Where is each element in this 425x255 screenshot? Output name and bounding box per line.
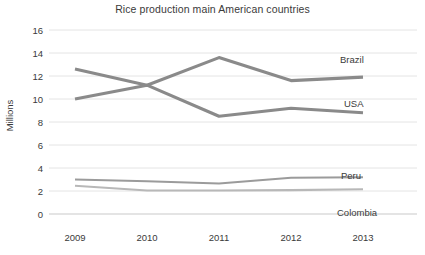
series-line-usa	[75, 85, 363, 116]
series-lines	[75, 58, 363, 191]
series-label-usa: USA	[344, 98, 364, 109]
series-label-brazil: Brazil	[340, 54, 364, 65]
x-tick-label-2009: 2009	[52, 232, 98, 243]
series-label-colombia: Colombia	[337, 207, 377, 218]
x-tick-label-2013: 2013	[340, 232, 386, 243]
x-tick-label-2012: 2012	[268, 232, 314, 243]
x-tick-label-2011: 2011	[196, 232, 242, 243]
series-line-brazil	[75, 58, 363, 86]
series-line-colombia	[75, 186, 363, 191]
chart-container: Rice production main American countries …	[0, 0, 425, 255]
series-line-peru	[75, 177, 363, 183]
x-tick-label-2010: 2010	[124, 232, 170, 243]
series-label-peru: Peru	[341, 170, 361, 181]
